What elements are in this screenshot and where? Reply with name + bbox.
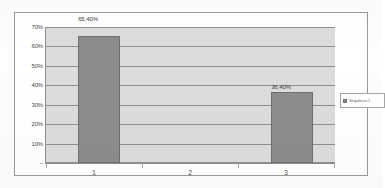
x-axis-separator xyxy=(46,163,47,168)
x-axis-separator xyxy=(238,163,239,168)
x-tick-label-3: 3 xyxy=(256,169,316,176)
y-tick-label: 70% xyxy=(17,24,43,30)
data-label-category-1: 65,40% xyxy=(58,16,118,23)
legend-item-label: Sequência 1 xyxy=(349,98,370,103)
y-tick-label: 60% xyxy=(17,43,43,49)
x-axis-separator xyxy=(142,163,143,168)
y-axis: 70% 60% 50% 40% 30% 20% 10% – xyxy=(17,27,43,163)
legend-color-swatch-icon xyxy=(343,99,347,103)
bar-category-1[interactable] xyxy=(78,36,120,163)
y-tick-label: 40% xyxy=(17,82,43,88)
plot-area xyxy=(46,27,335,163)
chart-frame: 70% 60% 50% 40% 30% 20% 10% – xyxy=(14,12,368,176)
y-tick-label: 50% xyxy=(17,63,43,69)
x-tick-label-1: 1 xyxy=(64,169,124,176)
gridline xyxy=(46,27,335,28)
x-tick-label-2: 2 xyxy=(160,169,220,176)
y-tick-label-zero: – xyxy=(17,160,43,166)
data-label-category-3: 36,40% xyxy=(251,84,311,91)
chart-plot-region: 70% 60% 50% 40% 30% 20% 10% – xyxy=(15,13,369,177)
x-axis-separator xyxy=(334,163,335,168)
x-axis-line xyxy=(45,163,335,164)
y-tick-label: 10% xyxy=(17,141,43,147)
chart-legend[interactable]: Sequência 1 xyxy=(340,93,385,108)
y-tick-label: 20% xyxy=(17,121,43,127)
bar-category-3[interactable] xyxy=(271,92,313,163)
y-tick-label: 30% xyxy=(17,102,43,108)
